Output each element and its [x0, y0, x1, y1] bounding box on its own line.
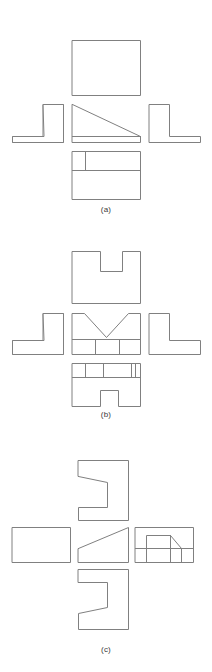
figure-b-right-view	[150, 314, 201, 355]
figure-b-front-view	[73, 314, 141, 355]
figure-c-caption: (c)	[0, 645, 212, 654]
figure-c: (c)	[0, 430, 212, 672]
figure-c-top-view	[79, 461, 129, 521]
figure-b-top-view	[73, 252, 141, 304]
figure-a-caption: (a)	[0, 205, 212, 214]
figure-a-views	[0, 0, 212, 205]
figure-b-bottom-view	[73, 364, 141, 407]
figure-b-left-view-outline	[13, 314, 64, 355]
figure-a-bottom-view	[73, 152, 141, 200]
figure-a-left-view-outline	[13, 105, 64, 143]
figure-b-caption: (b)	[0, 410, 212, 419]
figure-c-views	[0, 430, 212, 645]
figure-b-views	[0, 225, 212, 410]
figure-c-front-view	[79, 528, 129, 563]
figure-b: (b)	[0, 225, 212, 430]
figure-c-bottom-view	[79, 570, 129, 630]
figure-a-top-view	[73, 41, 141, 96]
drawing-sheet: (a) (b)	[0, 0, 212, 672]
figure-a: (a)	[0, 0, 212, 225]
figure-c-right-view	[136, 528, 194, 563]
figure-c-left-view	[13, 528, 71, 563]
figure-a-right-view	[150, 105, 201, 143]
